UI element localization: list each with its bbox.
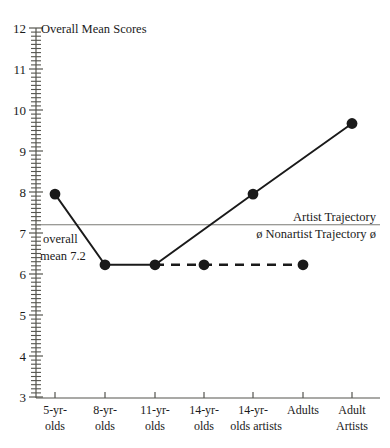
x-axis-label-5yr-olds-line2: olds (45, 419, 65, 433)
x-axis-label-8yr-olds-line2: olds (95, 419, 115, 433)
y-axis-tick-label-11: 11 (13, 62, 26, 77)
y-axis-tick-label-4: 4 (20, 349, 27, 364)
x-axis-label-14yr-olds-artists-line2: olds artists (230, 419, 282, 433)
annotation-overall: overall (43, 232, 78, 246)
y-axis-tick-label-7: 7 (20, 226, 27, 241)
annotation-artist-trajectory: Artist Trajectory (293, 210, 377, 224)
data-point-artist-8yr (100, 259, 111, 270)
x-axis-label-8yr-olds-line1: 8-yr- (93, 403, 117, 417)
y-axis-tick-label-6: 6 (20, 267, 27, 282)
y-axis-tick-label-9: 9 (20, 144, 27, 159)
data-point-artist-11yr (150, 259, 161, 270)
chart-page: Overall Mean Scores 12 11 10 9 8 7 6 5 4… (0, 0, 390, 448)
y-axis-tick-label-8: 8 (20, 185, 27, 200)
line-chart: Overall Mean Scores 12 11 10 9 8 7 6 5 4… (0, 0, 390, 448)
x-axis-label-14yr-olds-line2: olds (194, 419, 214, 433)
annotation-nonartist-trajectory: ø Nonartist Trajectory ø (256, 227, 376, 241)
x-axis-label-14yr-olds-line1: 14-yr- (189, 403, 219, 417)
x-axis-label-14yr-olds-artists-line1: 14-yr- (238, 403, 268, 417)
data-point-artist-14yr-artists (248, 189, 259, 200)
x-axis-label-5yr-olds-line1: 5-yr- (43, 403, 67, 417)
data-point-artist-adult-artists (347, 118, 358, 129)
data-point-artist-5yr (50, 189, 61, 200)
y-axis-tick-label-3: 3 (20, 390, 27, 405)
x-axis-label-adults: Adults (287, 403, 319, 417)
artist-trajectory-line (55, 124, 352, 265)
x-axis-label-adult-artists-line2: Artists (336, 419, 368, 433)
data-point-nonartist-adults (298, 259, 309, 270)
y-axis-tick-label-10: 10 (13, 103, 26, 118)
x-axis-label-adult-artists-line1: Adult (338, 403, 366, 417)
x-axis-label-11yr-olds-line2: olds (145, 419, 165, 433)
x-axis-label-11yr-olds-line1: 11-yr- (140, 403, 169, 417)
y-axis-tick-label-5: 5 (20, 308, 27, 323)
data-point-nonartist-14yr (199, 259, 210, 270)
annotation-mean-value: mean 7.2 (40, 249, 86, 263)
y-axis-tick-label-12: 12 (13, 21, 26, 36)
chart-title: Overall Mean Scores (41, 22, 147, 36)
